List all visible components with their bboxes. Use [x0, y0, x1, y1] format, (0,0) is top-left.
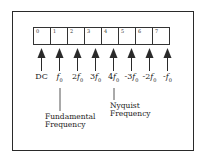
arrow-up-icon [56, 48, 64, 71]
arrow-up-icon [146, 48, 154, 71]
fundamental-frequency-annotation: Fundamental Frequency [45, 113, 95, 129]
arrow-up-icon [110, 48, 118, 71]
freq-label-3f0: 3f0 [90, 72, 101, 83]
freq-label-neg2f0: -2f0 [143, 72, 157, 83]
freq-label-negf0: -f0 [163, 72, 172, 83]
freq-label-4f0: 4f0 [108, 72, 119, 83]
arrows-layer [0, 0, 204, 157]
nyquist-frequency-annotation: Nyquist Frequency [110, 102, 151, 118]
freq-label-neg3f0: -3f0 [125, 72, 139, 83]
freq-label-f0: f0 [56, 72, 62, 83]
arrow-up-icon [92, 48, 100, 71]
freq-label-2f0: 2f0 [72, 72, 83, 83]
freq-label-dc: DC [35, 72, 48, 81]
arrow-up-icon [38, 48, 46, 71]
arrow-up-icon [164, 48, 172, 71]
arrow-up-icon [128, 48, 136, 71]
arrow-up-icon [74, 48, 82, 71]
